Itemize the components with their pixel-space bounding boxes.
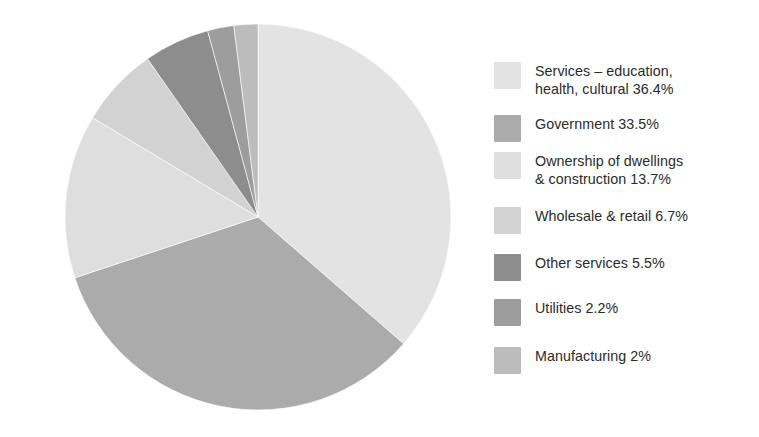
- pie-chart-figure: Services – education, health, cultural 3…: [0, 0, 759, 437]
- legend-item-label: Wholesale & retail 6.7%: [535, 207, 688, 226]
- legend-item-other-services: Other services 5.5%: [494, 254, 752, 281]
- legend-item-label: Government 33.5%: [535, 115, 659, 134]
- chart-legend: Services – education, health, cultural 3…: [494, 62, 752, 382]
- legend-item-label: Manufacturing 2%: [535, 347, 651, 366]
- legend-swatch-icon: [494, 347, 521, 374]
- legend-swatch-icon: [494, 299, 521, 326]
- legend-item-label: Services – education, health, cultural 3…: [535, 62, 674, 98]
- legend-swatch-icon: [494, 62, 521, 89]
- legend-item-manufacturing: Manufacturing 2%: [494, 347, 752, 374]
- pie-svg: Services – education, health, cultural 3…: [62, 20, 454, 414]
- pie-slice-group: Services – education, health, cultural 3…: [65, 24, 451, 410]
- legend-swatch-icon: [494, 207, 521, 234]
- legend-item-services: Services – education, health, cultural 3…: [494, 62, 752, 98]
- legend-swatch-icon: [494, 152, 521, 179]
- pie-chart-graphic: Services – education, health, cultural 3…: [62, 20, 454, 414]
- legend-swatch-icon: [494, 115, 521, 142]
- legend-item-ownership-of-dwellings: Ownership of dwellings & construction 13…: [494, 152, 752, 188]
- legend-item-label: Utilities 2.2%: [535, 299, 618, 318]
- legend-item-wholesale-retail: Wholesale & retail 6.7%: [494, 207, 752, 234]
- legend-item-government: Government 33.5%: [494, 115, 752, 142]
- legend-item-label: Other services 5.5%: [535, 254, 665, 273]
- legend-swatch-icon: [494, 254, 521, 281]
- legend-item-label: Ownership of dwellings & construction 13…: [535, 152, 683, 188]
- legend-item-utilities: Utilities 2.2%: [494, 299, 752, 326]
